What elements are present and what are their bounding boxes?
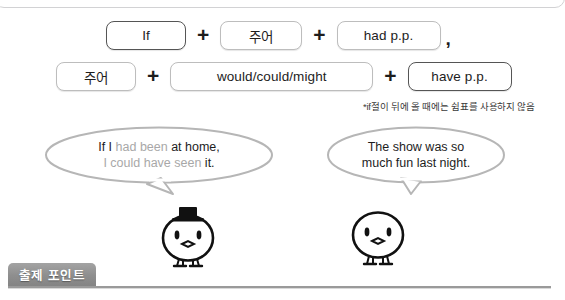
speech-bubble-left: If I had been at home, I could have seen… [43, 126, 275, 196]
bubble-left-highlight-2: I could have seen [103, 156, 201, 170]
chip-have-pp: have p.p. [408, 62, 512, 91]
section-header-band: 출제 포인트 [0, 260, 559, 300]
chip-subject-2: 주어 [56, 62, 136, 91]
section-tab-label: 출제 포인트 [19, 265, 85, 284]
chip-modals-label: would/could/might [217, 69, 327, 84]
chip-if: If [106, 21, 186, 50]
chip-subject-2-label: 주어 [84, 67, 108, 87]
plus-operator: + [373, 65, 407, 86]
plus-operator: + [136, 65, 170, 86]
speech-bubble-right-text: The show was so much fun last night. [325, 126, 507, 184]
chip-subject-1: 주어 [220, 21, 302, 50]
speech-bubble-left-text: If I had been at home, I could have seen… [43, 126, 275, 184]
trailing-comma: , [441, 29, 451, 48]
plus-operator: + [186, 24, 220, 45]
chip-have-pp-label: have p.p. [431, 69, 487, 84]
bubble-left-highlight-1: had been [116, 140, 168, 154]
section-tab-exam-point: 출제 포인트 [8, 263, 96, 286]
bubble-left-l1b: at home, [168, 140, 220, 154]
bubble-left-l2b: it. [201, 156, 214, 170]
formula-row-1: If + 주어 + had p.p. , [106, 21, 451, 50]
formula-footnote: *if절이 뒤에 올 때에는 쉼표를 사용하지 않음 [363, 99, 535, 113]
bubble-right-line-2: much fun last night. [362, 155, 470, 171]
bubble-right-line-1: The show was so [368, 139, 465, 155]
chip-if-label: If [142, 28, 150, 43]
speech-bubble-right: The show was so much fun last night. [325, 126, 507, 196]
bubble-left-l1a: If I [98, 140, 115, 154]
chip-modals: would/could/might [170, 62, 373, 91]
grammar-formula-diagram: If + 주어 + had p.p. , 주어 + would/could/mi… [0, 0, 559, 120]
plus-operator: + [302, 24, 336, 45]
section-divider-shadow [8, 288, 551, 289]
chip-subject-1-label: 주어 [249, 26, 273, 46]
chip-had-pp: had p.p. [337, 21, 441, 50]
bubble-left-line-1: If I had been at home, [98, 139, 220, 155]
bubble-left-line-2: I could have seen it. [103, 155, 214, 171]
chip-had-pp-label: had p.p. [364, 28, 414, 43]
formula-row-2: 주어 + would/could/might + have p.p. [56, 62, 512, 91]
